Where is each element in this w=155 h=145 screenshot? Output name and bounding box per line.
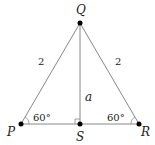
label-p: P (6, 125, 16, 139)
side-pq (21, 23, 80, 124)
side-qr (80, 23, 139, 124)
label-s: S (76, 130, 84, 144)
label-side-pq: 2 (38, 56, 44, 67)
label-q: Q (76, 3, 86, 17)
label-altitude: a (85, 90, 92, 104)
point-p (19, 122, 24, 127)
label-side-qr: 2 (115, 56, 121, 67)
point-s (78, 122, 83, 127)
label-angle-r: 60° (107, 112, 125, 123)
point-q (78, 21, 83, 26)
triangle-diagram: Q P S R 2 2 a 60° 60° (0, 0, 155, 145)
label-angle-p: 60° (33, 112, 51, 123)
label-r: R (140, 125, 150, 139)
angle-arc-r (131, 117, 135, 124)
angle-arc-p (25, 117, 29, 124)
